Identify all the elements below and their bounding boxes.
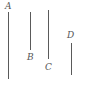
segment-a (8, 12, 9, 79)
label-d: D (67, 31, 74, 40)
label-c: C (45, 63, 52, 72)
segment-b (30, 12, 31, 50)
segment-c (48, 10, 49, 59)
label-a: A (5, 2, 12, 11)
segment-d (71, 43, 72, 75)
label-b: B (27, 53, 34, 62)
